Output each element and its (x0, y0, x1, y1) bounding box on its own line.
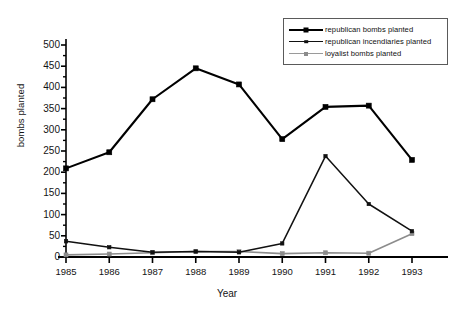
x-axis-tick-label: 1992 (349, 266, 389, 277)
x-axis-tick-label: 1987 (133, 266, 173, 277)
x-axis-tick-label: 1990 (262, 266, 302, 277)
chart-figure: bombs planted Year 050100150200250300350… (0, 0, 454, 316)
legend-label: republican incendiaries planted (325, 37, 431, 46)
legend-item[interactable]: republican bombs planted (287, 24, 443, 35)
legend-marker-icon (287, 36, 325, 47)
x-axis-tick-label: 1993 (392, 266, 432, 277)
legend-item[interactable]: republican incendiaries planted (287, 36, 443, 47)
legend-marker-icon (287, 48, 325, 59)
legend-label: loyalist bombs planted (325, 49, 401, 58)
x-axis-tick-label: 1988 (176, 266, 216, 277)
chart-legend: republican bombs planted republican ince… (283, 18, 448, 65)
legend-label: republican bombs planted (325, 25, 413, 34)
x-axis-tick-label: 1986 (89, 266, 129, 277)
x-axis-tick-label: 1985 (46, 266, 86, 277)
legend-item[interactable]: loyalist bombs planted (287, 48, 443, 59)
x-axis-tick-label: 1991 (306, 266, 346, 277)
legend-marker-icon (287, 24, 325, 35)
x-axis-tick-label: 1989 (219, 266, 259, 277)
